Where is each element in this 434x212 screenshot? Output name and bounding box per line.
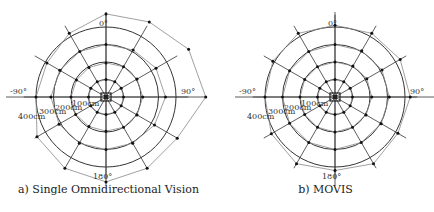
estimate-point [164,96,167,99]
estimate-point [113,80,116,83]
radial-spoke [335,56,406,97]
panel-movis: 0°90°180°-90°100cm200cm300cm400cm b) MOV… [217,0,434,212]
caption-single-omni: a) Single Omnidirectional Vision [0,183,217,196]
estimate-point [87,66,90,69]
estimate-point [141,96,144,99]
estimate-point [105,148,108,151]
estimate-point [316,126,319,129]
estimate-point [351,126,354,129]
estimate-point [36,135,39,138]
estimate-point [122,65,125,68]
estimate-point [349,87,352,90]
estimate-point [105,78,108,81]
estimate-point [87,125,90,128]
estimate-point [316,65,319,68]
estimate-point [307,50,310,53]
radial-spoke [106,26,147,97]
estimate-point [89,87,92,90]
estimate-point [303,113,306,116]
estimate-point [380,122,383,125]
estimate-point [105,12,108,15]
estimate-point [120,104,123,107]
estimate-point [113,111,116,114]
estimate-point [297,32,300,35]
estimate-point [342,111,345,114]
angle-label-neg90: -90° [10,87,27,96]
estimate-point [288,69,291,72]
estimate-point [148,20,151,23]
angle-label-neg90: -90° [239,87,256,96]
angle-label-0: 0° [99,19,108,28]
angle-label-90: 90° [181,87,195,96]
estimate-point [153,124,156,127]
radial-spoke [335,26,376,97]
estimate-point [318,87,321,90]
ring-label-400: 400cm [18,112,46,121]
estimate-point [58,69,61,72]
estimate-point [122,96,125,99]
estimate-point [122,126,125,129]
angle-label-180: 180° [93,172,112,181]
estimate-point [370,96,373,99]
estimate-point [146,167,149,170]
estimate-point [105,61,108,64]
radial-spoke [294,26,335,97]
estimate-point [351,64,354,67]
estimate-point [105,130,108,133]
radial-spoke [106,97,147,168]
radial-spoke [264,56,335,97]
angle-label-180: 180° [322,172,341,181]
estimate-point [288,122,291,125]
estimate-point [334,148,337,151]
estimate-point [96,80,99,83]
estimate-point [49,96,52,99]
estimate-point [295,162,298,165]
estimate-point [187,48,190,51]
estimate-point [120,87,123,90]
radial-spoke [35,56,106,97]
estimate-point [96,111,99,114]
estimate-point [155,67,158,70]
sensor-center [104,95,108,99]
estimate-point [68,32,71,35]
sensor-center [333,95,337,99]
estimate-point [136,113,139,116]
estimate-point [75,78,78,81]
estimate-point [388,96,391,99]
estimate-point [351,96,354,99]
radial-spoke [106,56,177,97]
estimate-point [325,111,328,114]
estimate-point [334,43,337,46]
estimate-point [270,132,273,135]
estimate-point [35,96,38,99]
angle-label-90: 90° [410,87,424,96]
estimate-point [58,123,61,126]
estimate-point [176,137,179,140]
estimate-point [78,50,81,53]
estimate-point [325,80,328,83]
estimate-point [74,113,77,116]
estimate-point [334,113,337,116]
estimate-point [271,60,274,63]
estimate-point [380,68,383,71]
estimate-point [307,141,310,144]
estimate-point [360,141,363,144]
estimate-point [334,61,337,64]
estimate-point [342,80,345,83]
estimate-point [370,32,373,35]
estimate-point [131,142,134,145]
estimate-point [365,113,368,116]
estimate-point [45,61,48,64]
estimate-point [334,78,337,81]
ring-label-400: 400cm [247,112,275,121]
estimate-point [396,132,399,135]
estimate-point [281,96,284,99]
radial-spoke [335,97,406,138]
estimate-point [105,113,108,116]
estimate-point [399,58,402,61]
estimate-point [303,78,306,81]
panel-single-omni: 0°90°180°-90°100cm200cm300cm400cm a) Sin… [0,0,217,212]
estimate-point [132,49,135,52]
estimate-point [365,77,368,80]
estimate-point [334,131,337,134]
